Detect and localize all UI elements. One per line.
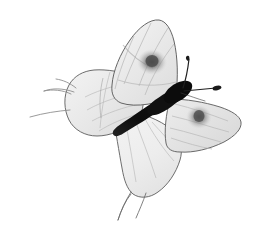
butterfly-illustration — [0, 0, 266, 234]
eyespot-hindwing-right-core — [194, 110, 205, 122]
eyespot-forewing-right-core — [146, 55, 159, 67]
image-canvas: Grayscale photograph of a pale butterfly… — [0, 0, 266, 234]
